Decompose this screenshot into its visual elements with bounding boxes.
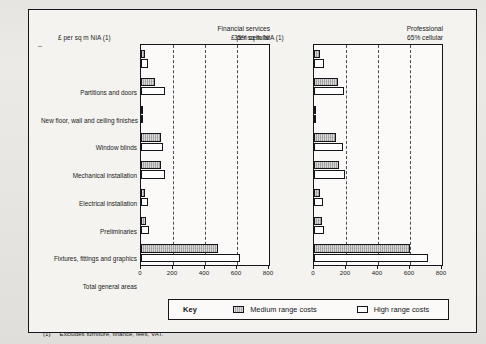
bar-high-range (141, 170, 165, 178)
x-axis-tick-label: 200 (340, 269, 350, 276)
legend: Key Medium range costs High range costs (168, 299, 449, 320)
bar-medium-range (314, 189, 320, 197)
category-label: Fixtures, fittings and graphics (41, 255, 137, 262)
bar-rows (141, 45, 269, 265)
footnote-text: Excludes furniture, finance, fees, VAT. (60, 330, 164, 337)
category-label: New floor, wall and ceiling finishes (41, 116, 137, 123)
bar-medium-range (141, 244, 218, 252)
bar-medium-range (141, 217, 146, 225)
x-axis-tick-label: 0 (138, 269, 141, 276)
chart-title-right: Professional (407, 25, 443, 32)
plot-area-left (140, 44, 270, 266)
bar-high-range (314, 143, 343, 151)
bar-high-range (314, 226, 324, 234)
bar-high-range (141, 254, 240, 262)
chart-header-right: £ per sq m NIA (1) Professional 65% cell… (313, 10, 443, 44)
x-axis-tick-label: 800 (263, 269, 273, 276)
x-axis-right: 0200400600800 (313, 266, 443, 282)
bar-high-range (314, 115, 316, 123)
bar-high-range (314, 87, 344, 95)
footnote-marker: (1) (43, 330, 51, 337)
chart-panel-professional: £ per sq m NIA (1) Professional 65% cell… (313, 44, 443, 266)
legend-label-medium: Medium range costs (250, 305, 317, 314)
legend-label-high: High range costs (374, 305, 429, 314)
bar-high-range (141, 226, 149, 234)
bar-high-range (141, 59, 148, 67)
bar-high-range (314, 170, 345, 178)
x-axis-tick-label: 400 (199, 269, 209, 276)
bar-high-range (141, 143, 163, 151)
chart-title-left: Financial services (218, 25, 270, 32)
bar-high-range (141, 87, 165, 95)
bar-high-range (314, 254, 428, 262)
chart-panel-financial-services: £ per sq m NIA (1) Financial services 35… (140, 44, 270, 266)
category-label: Preliminaries (41, 227, 137, 234)
category-label: Partitions and doors (41, 88, 137, 95)
bar-medium-range (141, 50, 145, 58)
bar-high-range (141, 115, 143, 123)
legend-swatch-medium-icon (233, 306, 244, 314)
figure: Partitions and doorsNew floor, wall and … (29, 10, 476, 332)
legend-item-medium: Medium range costs (233, 305, 317, 314)
bar-medium-range (314, 133, 336, 141)
bar-medium-range (314, 50, 320, 58)
figure-frame: Partitions and doorsNew floor, wall and … (28, 9, 477, 333)
legend-swatch-high-icon (357, 306, 368, 314)
x-axis-tick-label: 600 (404, 269, 414, 276)
x-axis-tick-label: 800 (436, 269, 446, 276)
bar-medium-range (314, 161, 339, 169)
category-label: Mechanical installation (41, 172, 137, 179)
bar-medium-range (141, 133, 161, 141)
bar-medium-range (314, 106, 316, 114)
x-axis-tick-label: 200 (167, 269, 177, 276)
scan-edge-mark (38, 46, 42, 47)
bar-medium-range (141, 161, 161, 169)
bar-high-range (141, 198, 148, 206)
category-label: Total general areas (41, 283, 137, 290)
bar-rows (314, 45, 442, 265)
bar-medium-range (141, 78, 155, 86)
category-axis-labels: Partitions and doorsNew floor, wall and … (41, 78, 137, 300)
footnote: (1)Excludes furniture, finance, fees, VA… (43, 330, 163, 337)
legend-title: Key (183, 305, 197, 314)
plot-area-right (313, 44, 443, 266)
x-axis-tick-label: 400 (372, 269, 382, 276)
chart-subtitle-right: 65% cellular (407, 34, 443, 41)
bar-high-range (314, 59, 324, 67)
bar-medium-range (314, 217, 322, 225)
x-axis-tick-label: 0 (311, 269, 314, 276)
unit-label-left: £ per sq m NIA (1) (58, 34, 194, 41)
bar-medium-range (314, 244, 410, 252)
category-label: Window blinds (41, 144, 137, 151)
bar-medium-range (314, 78, 338, 86)
category-label: Electrical installation (41, 199, 137, 206)
x-axis-tick-label: 600 (231, 269, 241, 276)
bar-medium-range (141, 189, 145, 197)
unit-label-right: £ per sq m NIA (1) (231, 34, 367, 41)
legend-item-high: High range costs (357, 305, 429, 314)
bar-medium-range (141, 106, 143, 114)
bar-high-range (314, 198, 323, 206)
x-axis-left: 0200400600800 (140, 266, 270, 282)
